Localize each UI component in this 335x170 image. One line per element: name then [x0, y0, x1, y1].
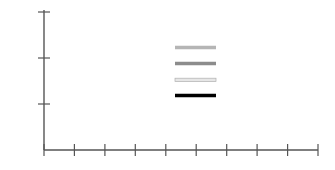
line-chart — [0, 0, 335, 170]
legend-item-evangelical[interactable] — [175, 78, 216, 81]
chart-container — [0, 0, 335, 170]
legend-swatch-evangelical — [175, 78, 216, 81]
chart-legend — [175, 48, 216, 96]
